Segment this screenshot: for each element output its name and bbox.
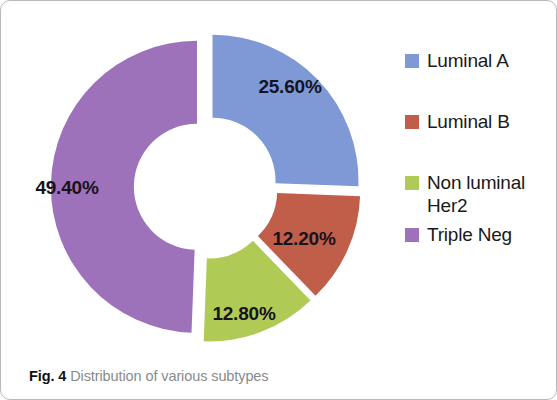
figure-frame: 25.60%12.20%12.80%49.40% Luminal A Lumin… [0, 0, 557, 400]
donut-slice-0[interactable] [212, 35, 358, 187]
figure-caption: Fig. 4 Distribution of various subtypes [29, 367, 268, 385]
figure-caption-label: Fig. 4 [29, 368, 66, 384]
legend-item-triple-neg[interactable]: Triple Neg [405, 223, 555, 246]
legend-swatch-luminal-b [405, 115, 419, 129]
donut-slice-label-3: 49.40% [35, 177, 98, 199]
legend-label-non-luminal-her2: Non luminal Her2 [427, 171, 547, 217]
legend-item-luminal-b[interactable]: Luminal B [405, 110, 555, 133]
legend-item-luminal-a[interactable]: Luminal A [405, 49, 555, 72]
legend-item-non-luminal-her2[interactable]: Non luminal Her2 [405, 171, 555, 217]
donut-slice-label-0: 25.60% [258, 76, 321, 98]
figure-caption-text: Distribution of various subtypes [66, 368, 268, 384]
donut-slice-label-2: 12.80% [212, 303, 275, 325]
legend-swatch-triple-neg [405, 228, 419, 242]
legend-label-triple-neg: Triple Neg [427, 223, 512, 246]
legend-swatch-non-luminal-her2 [405, 176, 419, 190]
legend: Luminal A Luminal B Non luminal Her2 Tri… [405, 49, 555, 246]
donut-slice-label-1: 12.20% [272, 228, 335, 250]
legend-label-luminal-a: Luminal A [427, 49, 509, 72]
legend-swatch-luminal-a [405, 54, 419, 68]
donut-chart: 25.60%12.20%12.80%49.40% [1, 1, 401, 353]
legend-label-luminal-b: Luminal B [427, 110, 510, 133]
